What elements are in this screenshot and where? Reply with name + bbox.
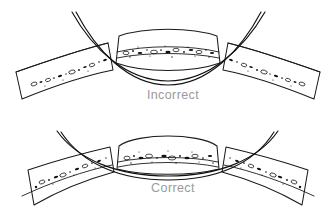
figure-root: Incorrect	[0, 0, 336, 217]
panel-incorrect: Incorrect	[16, 12, 320, 102]
panel-correct: Correct	[22, 131, 314, 205]
right-segment	[222, 147, 314, 205]
center-segment	[116, 29, 220, 70]
center-segment	[117, 136, 219, 174]
caption-incorrect: Incorrect	[147, 88, 199, 102]
placement-comparison-diagram: Incorrect	[0, 0, 336, 217]
caption-correct: Correct	[151, 181, 195, 195]
right-segment	[223, 43, 320, 99]
left-segment	[22, 147, 114, 205]
left-segment	[16, 43, 113, 99]
